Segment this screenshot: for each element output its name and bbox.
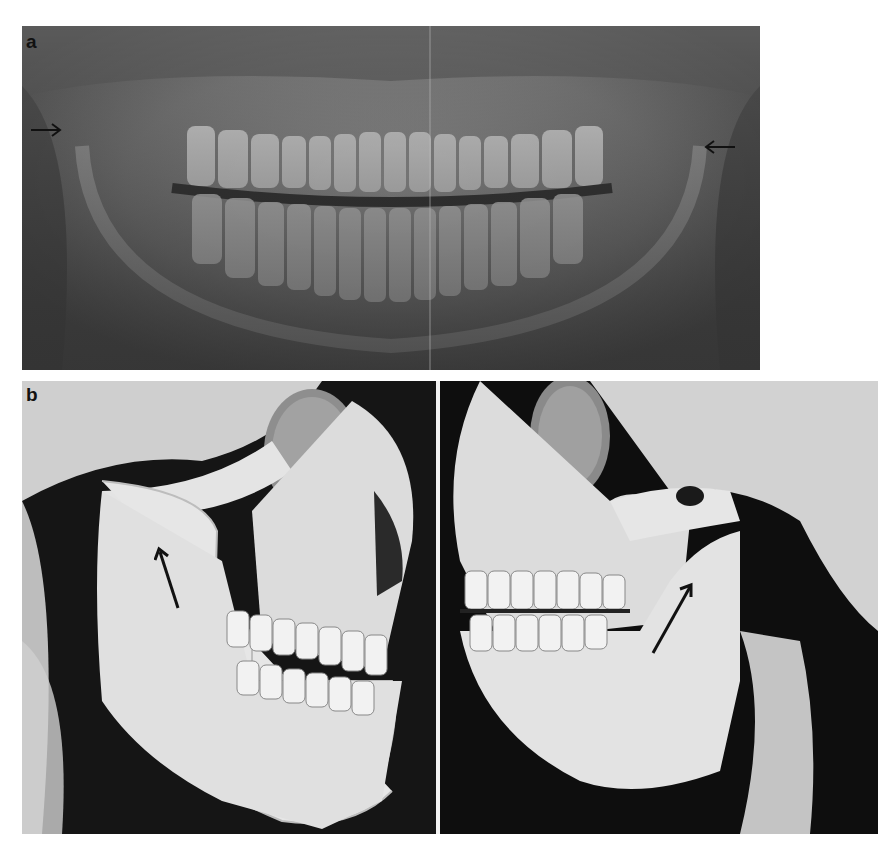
arrow-up-icon — [154, 546, 184, 610]
panel-b-label: b — [26, 385, 38, 404]
panel-a-label: a — [26, 32, 37, 51]
arrow-left-icon — [704, 140, 736, 154]
ct-3d-left-view-image — [22, 381, 436, 834]
ct-3d-left-view-panel: b — [22, 381, 436, 834]
panoramic-xray-panel: a — [22, 26, 760, 370]
ct-3d-right-view-panel — [440, 381, 878, 834]
panoramic-xray-image — [22, 26, 760, 370]
arrow-right-icon — [30, 123, 62, 137]
arrow-up-right-icon — [650, 581, 696, 655]
